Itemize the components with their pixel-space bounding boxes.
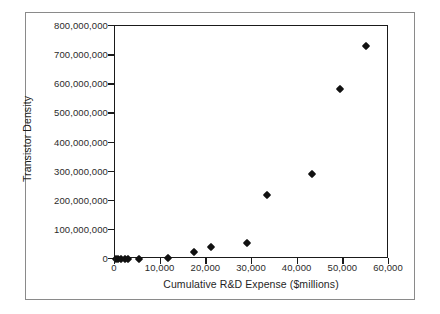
data-point [190,248,198,256]
y-axis-tick-label: 500,000,000 [54,107,108,118]
x-axis-tick-label: 40,000 [282,262,312,273]
data-point [308,169,316,177]
x-axis-tick-label: 60,000 [373,262,403,273]
y-axis-tick-label: 700,000,000 [54,49,108,60]
x-axis-tick-label: 0 [111,262,116,273]
x-axis-tick-label: 10,000 [145,262,175,273]
data-point [207,243,215,251]
scatter-chart-figure: 0100,000,000200,000,000300,000,000400,00… [0,0,440,314]
y-axis-tick-label: 300,000,000 [54,165,108,176]
data-point [263,190,271,198]
data-point [243,239,251,247]
y-axis-tick-labels: 0100,000,000200,000,000300,000,000400,00… [28,25,108,258]
y-axis-tick-label: 100,000,000 [54,223,108,234]
data-point [336,85,344,93]
y-axis-tick-label: 600,000,000 [54,78,108,89]
y-axis-title: Transistor Density [21,59,33,219]
data-point-layer [115,26,387,257]
plot-area [114,25,388,258]
data-point [362,42,370,50]
y-axis-tick-label: 400,000,000 [54,136,108,147]
y-axis-tick-label: 200,000,000 [54,194,108,205]
x-axis-tick-label: 20,000 [190,262,220,273]
x-axis-tick-label: 30,000 [236,262,266,273]
x-axis-title: Cumulative R&D Expense ($millions) [114,278,388,290]
x-axis-tick-labels: 010,00020,00030,00040,00050,00060,000 [114,262,388,278]
x-axis-tick-label: 50,000 [327,262,357,273]
y-axis-tick-label: 800,000,000 [54,20,108,31]
